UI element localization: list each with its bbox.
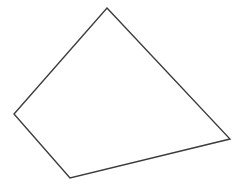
diagram-svg <box>0 0 246 191</box>
canvas-background <box>0 0 246 191</box>
figure-canvas <box>0 0 246 191</box>
